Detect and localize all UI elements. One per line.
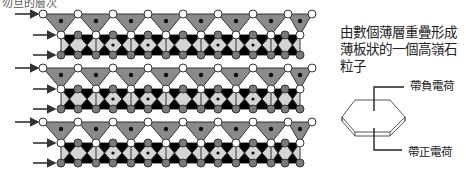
particle-caption: 由數個薄層重疊形成 薄板狀的一個高嶺石 粒子 [340, 24, 466, 75]
clay-layer-1 [15, 10, 316, 59]
caption-line-1: 由數個薄層重疊形成 [340, 24, 466, 41]
positive-charge-label: 帶正電荷 [408, 143, 452, 159]
clay-layer-2 [15, 64, 316, 113]
clay-layer-3 [15, 118, 316, 167]
caption-line-3: 粒子 [340, 58, 466, 75]
caption-line-2: 薄板狀的一個高嶺石 [340, 41, 466, 58]
negative-charge-label: 帶負電荷 [410, 77, 454, 93]
